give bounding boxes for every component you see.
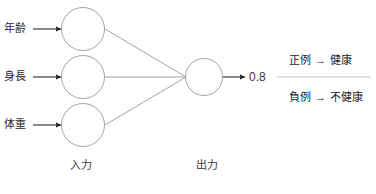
output-value: 0.8 (249, 70, 266, 84)
input-node-height (62, 56, 105, 99)
diagram-canvas: 年齢 身長 体重 入力 出力 0.8 正例→健康 負例→不健康 (0, 0, 376, 194)
input-node-age (62, 8, 105, 51)
edge-age-to-output (105, 29, 186, 77)
right-arrow-icon: → (311, 54, 330, 66)
output-node (186, 59, 223, 96)
outcome-positive: 正例→健康 (289, 54, 352, 67)
outcome-negative-result: 不健康 (330, 91, 363, 103)
outcome-negative-condition: 負例 (289, 91, 311, 103)
input-node-weight (62, 104, 105, 147)
right-arrow-icon: → (311, 91, 330, 103)
outcome-positive-result: 健康 (330, 54, 352, 66)
feature-label-height: 身長 (4, 70, 26, 83)
layer-caption-input: 入力 (70, 159, 92, 172)
outcome-positive-condition: 正例 (289, 54, 311, 66)
feature-label-age: 年齢 (4, 22, 26, 35)
outcome-negative: 負例→不健康 (289, 91, 363, 104)
feature-label-weight: 体重 (4, 118, 26, 131)
edge-weight-to-output (105, 77, 186, 125)
layer-caption-output: 出力 (196, 159, 218, 172)
